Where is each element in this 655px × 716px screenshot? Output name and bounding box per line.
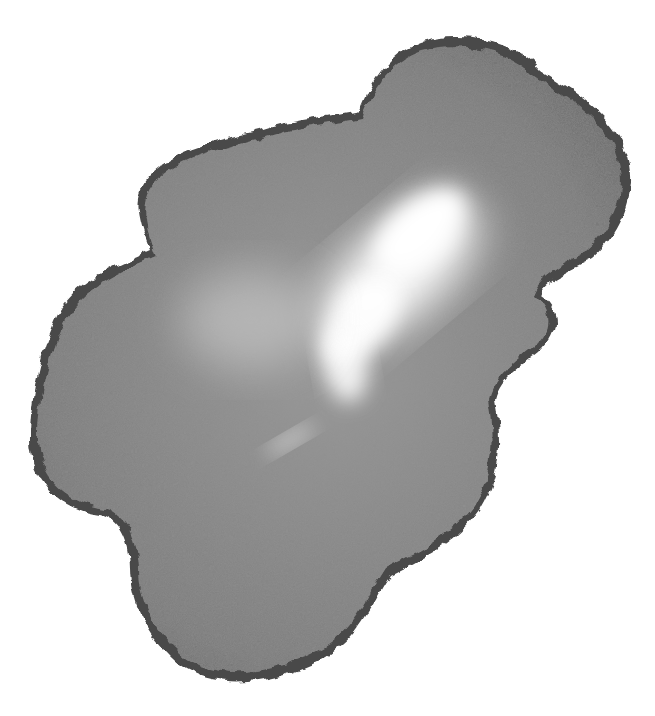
ink-blot-illustration: [0, 0, 655, 716]
ink-blot-canvas: [0, 0, 655, 716]
